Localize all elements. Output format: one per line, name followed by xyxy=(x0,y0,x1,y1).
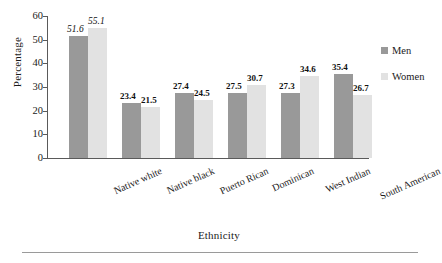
bar-value-women: 21.5 xyxy=(141,96,157,105)
y-tick-mark-20 xyxy=(43,111,47,112)
bar-value-women: 55.1 xyxy=(88,17,105,26)
bar-value-men: 35.4 xyxy=(332,63,348,72)
y-tick-0: 0 xyxy=(7,153,43,163)
bar-men[interactable] xyxy=(334,74,353,158)
bottom-divider xyxy=(22,252,418,253)
bar-men[interactable] xyxy=(69,36,88,158)
y-tick-40: 40 xyxy=(7,58,43,68)
bar-value-men: 27.4 xyxy=(173,82,189,91)
y-tick-60: 60 xyxy=(7,11,43,21)
bar-value-men: 27.5 xyxy=(226,82,242,91)
legend-swatch-women xyxy=(381,73,388,80)
x-tick-label-south-american: South American xyxy=(379,166,442,201)
y-axis-line xyxy=(47,16,48,158)
bar-women[interactable] xyxy=(88,28,107,158)
y-tick-mark-10 xyxy=(43,134,47,135)
bar-men[interactable] xyxy=(175,93,194,158)
bar-value-women: 24.5 xyxy=(194,89,210,98)
x-axis-line xyxy=(47,158,369,159)
legend: Men Women xyxy=(381,45,424,97)
x-tick-label-native-white: Native white xyxy=(112,166,163,196)
bar-women[interactable] xyxy=(353,95,372,158)
bar-value-women: 34.6 xyxy=(300,65,316,74)
legend-label-women: Women xyxy=(392,71,424,82)
bar-value-men: 27.3 xyxy=(279,82,295,91)
y-tick-mark-50 xyxy=(43,40,47,41)
bar-women[interactable] xyxy=(194,100,213,158)
bar-value-women: 30.7 xyxy=(247,74,263,83)
y-tick-mark-30 xyxy=(43,87,47,88)
y-tick-mark-40 xyxy=(43,63,47,64)
y-tick-mark-60 xyxy=(43,16,47,17)
y-tick-mark-0 xyxy=(43,158,47,159)
x-tick-label-native-black: Native black xyxy=(165,166,215,196)
y-tick-10: 10 xyxy=(7,129,43,139)
x-tick-label-west-indian: West Indian xyxy=(324,166,372,195)
x-tick-label-dominican: Dominican xyxy=(271,166,316,193)
x-tick-label-puerto-rican: Puerto Rican xyxy=(218,166,270,196)
bar-women[interactable] xyxy=(247,85,266,158)
y-tick-20: 20 xyxy=(7,106,43,116)
bar-value-men: 23.4 xyxy=(120,92,136,101)
legend-label-men: Men xyxy=(392,45,411,56)
bar-value-women: 26.7 xyxy=(353,84,369,93)
y-tick-30: 30 xyxy=(7,82,43,92)
legend-item-men[interactable]: Men xyxy=(381,45,424,56)
bar-men[interactable] xyxy=(228,93,247,158)
bar-value-men: 51.6 xyxy=(67,25,84,34)
bar-women[interactable] xyxy=(141,107,160,158)
bar-men[interactable] xyxy=(122,103,141,158)
plot-area: 0 10 20 30 40 50 60 51.6 55.1 23.4 21.5 xyxy=(47,16,369,158)
y-tick-50: 50 xyxy=(7,35,43,45)
bar-women[interactable] xyxy=(300,76,319,158)
x-axis-title: Ethnicity xyxy=(0,229,438,241)
bar-men[interactable] xyxy=(281,93,300,158)
legend-swatch-men xyxy=(381,47,388,54)
legend-item-women[interactable]: Women xyxy=(381,71,424,82)
